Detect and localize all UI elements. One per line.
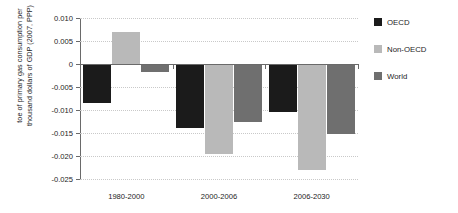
- bar-oecd-1980-2000: [83, 64, 111, 103]
- y-axis-label: -0.015: [51, 129, 73, 138]
- y-axis-label: 0.010: [54, 14, 73, 23]
- bar-non-oecd-2000-2006: [205, 64, 233, 154]
- zero-axis-line: [80, 64, 358, 65]
- y-axis-label: -0.005: [51, 83, 73, 92]
- gridline: [80, 179, 358, 180]
- legend-swatch-icon: [374, 72, 382, 80]
- bar-non-oecd-2006-2030: [298, 64, 326, 170]
- legend-label: Non-OECD: [387, 45, 426, 54]
- x-axis-label: 2000-2006: [201, 192, 237, 201]
- gridline: [80, 18, 358, 19]
- bar-chart: toe of primary gas consumption per thous…: [0, 0, 458, 213]
- chart-legend: OECD Non-OECD World: [374, 16, 426, 97]
- bar-world-1980-2000: [141, 64, 169, 72]
- y-axis-tick: [76, 41, 80, 42]
- y-axis-label: 0: [69, 60, 73, 69]
- y-axis-line: [80, 18, 81, 179]
- x-axis-label: 1980-2000: [108, 192, 144, 201]
- x-axis-tick: [173, 64, 174, 69]
- legend-item-oecd: OECD: [374, 16, 426, 28]
- plot-area: 0.0100.0050-0.005-0.010-0.015-0.020-0.02…: [80, 18, 358, 179]
- bar-oecd-2006-2030: [269, 64, 297, 112]
- y-axis-tick: [76, 110, 80, 111]
- x-axis-tick: [265, 64, 266, 69]
- bar-oecd-2000-2006: [176, 64, 204, 128]
- legend-swatch-icon: [374, 45, 382, 53]
- y-axis-tick: [76, 156, 80, 157]
- y-axis-tick: [76, 179, 80, 180]
- y-axis-tick: [76, 87, 80, 88]
- y-axis-tick: [76, 18, 80, 19]
- bar-non-oecd-1980-2000: [112, 32, 140, 64]
- y-axis-tick: [76, 133, 80, 134]
- legend-label: World: [387, 72, 407, 81]
- x-axis-label: 2006-2030: [293, 192, 329, 201]
- y-axis-label: -0.020: [51, 152, 73, 161]
- y-axis-label: 0.005: [54, 37, 73, 46]
- bar-world-2006-2030: [327, 64, 355, 134]
- y-axis-label: -0.010: [51, 106, 73, 115]
- bar-world-2000-2006: [234, 64, 262, 122]
- y-axis-title: toe of primary gas consumption per thous…: [15, 0, 34, 156]
- legend-label: OECD: [387, 18, 410, 27]
- legend-swatch-icon: [374, 18, 382, 26]
- x-axis-tick: [358, 64, 359, 69]
- y-axis-label: -0.025: [51, 175, 73, 184]
- legend-item-world: World: [374, 70, 426, 82]
- legend-item-non-oecd: Non-OECD: [374, 43, 426, 55]
